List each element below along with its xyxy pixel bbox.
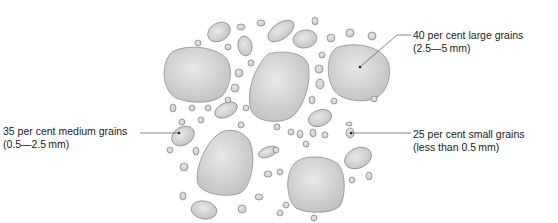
large-grain-1 — [164, 47, 230, 102]
small-grain — [346, 122, 352, 126]
large-grain-5 — [288, 157, 345, 212]
small-grain — [371, 96, 377, 102]
small-grain — [189, 105, 195, 111]
leader-small — [350, 132, 411, 135]
small-grain — [255, 194, 263, 200]
small-grain — [327, 34, 335, 42]
small-grain — [366, 172, 372, 180]
small-grain — [309, 96, 315, 104]
small-grain — [235, 69, 243, 77]
small-grain — [238, 122, 244, 128]
small-grain — [322, 132, 328, 138]
small-grain — [346, 29, 354, 37]
large-grain-3 — [328, 45, 389, 101]
large-grain-4 — [197, 130, 253, 195]
small-grain — [180, 192, 186, 200]
medium-grain — [292, 28, 319, 50]
small-grain — [368, 32, 376, 40]
small-grain — [331, 98, 337, 104]
small-grain — [195, 40, 201, 46]
medium-grain — [168, 122, 198, 150]
small-grain — [319, 52, 325, 58]
small-grain — [257, 20, 265, 26]
small-grain — [179, 119, 185, 125]
small-grain — [238, 205, 246, 213]
medium-grain — [264, 16, 298, 46]
small-grain — [277, 169, 283, 175]
small-grain — [167, 147, 173, 153]
small-grain — [273, 147, 279, 153]
label-large-line1: 40 per cent large grains — [413, 29, 523, 42]
small-grain — [277, 210, 283, 216]
medium-grain — [236, 35, 253, 57]
small-grain — [243, 105, 249, 111]
small-grain — [248, 60, 254, 66]
small-grain — [264, 171, 272, 177]
label-large-line2: (2.5—5 mm) — [413, 42, 523, 55]
small-grain — [315, 65, 323, 73]
large-grain-2 — [249, 52, 309, 121]
small-grain — [237, 24, 245, 30]
small-grain — [193, 147, 199, 155]
small-grain — [274, 124, 280, 130]
small-grain — [198, 117, 204, 123]
medium-grain — [190, 199, 219, 221]
small-grain — [180, 163, 188, 171]
label-large-grains: 40 per cent large grains (2.5—5 mm) — [413, 29, 523, 55]
small-grain — [297, 130, 303, 138]
small-grain — [310, 129, 316, 137]
small-grain — [288, 129, 294, 135]
label-small-grains: 25 per cent small grains (less than 0.5 … — [413, 128, 524, 154]
small-grain — [283, 202, 289, 208]
small-grain — [205, 105, 211, 111]
label-small-line1: 25 per cent small grains — [413, 128, 524, 141]
medium-grain — [341, 143, 375, 173]
label-small-line2: (less than 0.5 mm) — [413, 141, 524, 154]
small-grain — [225, 44, 231, 50]
small-grain — [349, 177, 355, 183]
medium-grain — [306, 106, 334, 129]
small-grain — [225, 97, 231, 103]
label-medium-line1: 35 per cent medium grains — [3, 125, 127, 138]
small-grain — [303, 141, 309, 147]
small-grain — [231, 84, 239, 92]
medium-grain — [204, 18, 234, 46]
small-grain — [170, 104, 176, 112]
small-grain — [316, 79, 324, 89]
small-grain — [312, 17, 318, 25]
label-medium-grains: 35 per cent medium grains (0.5—2.5 mm) — [3, 125, 127, 151]
label-medium-line2: (0.5—2.5 mm) — [3, 138, 127, 151]
small-grain — [311, 215, 317, 221]
